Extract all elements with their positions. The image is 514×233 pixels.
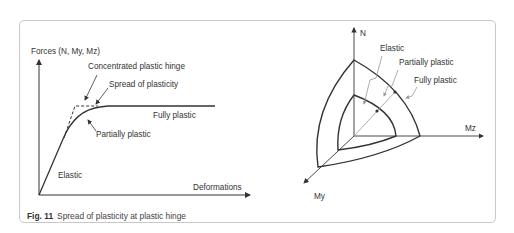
figure-number: Fig. 11 [27,211,53,221]
figure-graphics: Forces (N, My, Mz) Deformations Concentr… [0,0,514,233]
y-axis-label: Forces (N, My, Mz) [31,47,100,56]
partially-plastic-zone-label: Partially plastic [399,58,454,67]
partially-plastic-label: Partially plastic [96,130,151,139]
interaction-surface-diagram: N Mz My Elastic Partially plastic Fully … [304,28,483,201]
elastic-zone-label: Elastic [380,44,404,53]
force-deformation-chart: Forces (N, My, Mz) Deformations Concentr… [31,47,250,195]
concentrated-hinge-label: Concentrated plastic hinge [88,62,185,71]
my-axis [304,136,354,183]
fully-plastic-surface [317,60,420,167]
elastic-label: Elastic [58,171,82,180]
figure-caption: Fig. 11Spread of plasticity at plastic h… [27,211,186,221]
n-axis-label: N [360,29,366,38]
fully-plastic-label: Fully plastic [153,111,196,120]
mz-axis-label: Mz [465,124,476,133]
concentrated-hinge-curve [64,106,98,138]
figure-caption-text: Spread of plasticity at plastic hinge [57,211,186,221]
spread-label: Spread of plasticity [109,80,179,89]
x-axis-label: Deformations [193,183,242,192]
my-axis-label: My [314,192,326,201]
fully-plastic-zone-label: Fully plastic [414,76,457,85]
